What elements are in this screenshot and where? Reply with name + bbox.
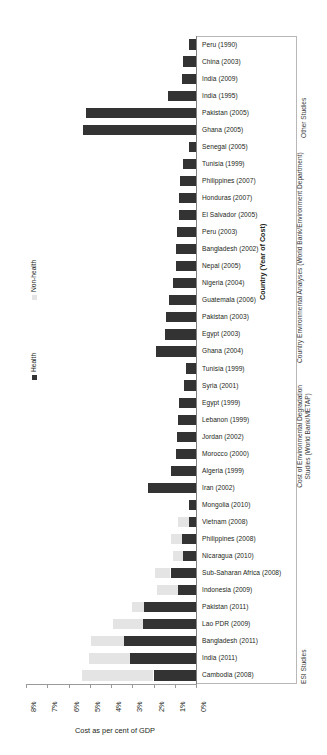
bar-row-label: Honduras (2007) xyxy=(202,194,252,202)
bar-row: Nicaragua (2010) xyxy=(26,551,297,561)
bar-segment-health xyxy=(156,346,196,356)
bar-row-label: Peru (1990) xyxy=(202,41,237,49)
bar-segment-health xyxy=(184,380,196,390)
bar-row: Peru (2003) xyxy=(26,227,297,237)
bar-segment-health xyxy=(178,585,196,595)
bar-segment-health xyxy=(189,39,196,49)
bar-segment-health xyxy=(154,670,197,680)
bar-row: Bangladesh (2011) xyxy=(26,636,297,646)
bar-row: Egypt (1999) xyxy=(26,398,297,408)
bar-row: Mongolia (2010) xyxy=(26,500,297,510)
bar-segment-non-health xyxy=(173,551,184,561)
bar-row-label: Syria (2001) xyxy=(202,382,239,390)
bar-row: Cambodia (2008) xyxy=(26,670,297,680)
bar-row-label: Pakistan (2003) xyxy=(202,313,249,321)
bar-row: Syria (2001) xyxy=(26,380,297,390)
bar-segment-non-health xyxy=(91,636,124,646)
bar-segment-health xyxy=(144,602,196,612)
bar-row-label: Egypt (1999) xyxy=(202,399,240,407)
x-tick-label: 6% xyxy=(72,701,81,712)
bar-segment-non-health xyxy=(113,619,143,629)
bar-rows-container: Peru (1990)China (2003)India (2009)India… xyxy=(26,36,297,684)
x-tick-label: 2% xyxy=(157,701,166,712)
bar-row: Iran (2002) xyxy=(26,483,297,493)
bar-segment-health xyxy=(176,244,196,254)
bar-segment-health xyxy=(148,483,196,493)
x-tick xyxy=(154,684,155,688)
bar-row-label: Mongolia (2010) xyxy=(202,501,250,509)
bar-row: Peru (1990) xyxy=(26,39,297,49)
bar-segment-health xyxy=(171,568,197,578)
bar-segment-health xyxy=(166,312,196,322)
bar-row-label: Morocco (2000) xyxy=(202,450,249,458)
bar-row: Nigeria (2004) xyxy=(26,278,297,288)
bar-segment-non-health xyxy=(171,534,183,544)
bar-row: Bangladesh (2002) xyxy=(26,244,297,254)
bar-segment-health xyxy=(179,210,196,220)
bar-row-label: Nigeria (2004) xyxy=(202,279,244,287)
x-tick xyxy=(175,684,176,688)
bar-row-label: Egypt (2003) xyxy=(202,330,240,338)
bar-segment-health xyxy=(86,108,197,118)
bar-row: Algeria (1999) xyxy=(26,466,297,476)
bar-segment-non-health xyxy=(132,602,144,612)
bar-row: India (2009) xyxy=(26,74,297,84)
bar-row: Tunisia (1999) xyxy=(26,159,297,169)
x-tick-label: 3% xyxy=(135,701,144,712)
bar-row-label: Peru (2003) xyxy=(202,228,237,236)
bar-row-label: China (2003) xyxy=(202,58,241,66)
bar-row-label: Nicaragua (2010) xyxy=(202,552,254,560)
x-tick-label: 4% xyxy=(114,701,123,712)
bar-row-label: Ghana (2004) xyxy=(202,347,243,355)
bar-row: Jordan (2002) xyxy=(26,432,297,442)
plot-area: Peru (1990)China (2003)India (2009)India… xyxy=(26,36,297,684)
bar-row-label: Tunisia (1999) xyxy=(202,365,245,373)
legend-item-health: Health xyxy=(30,353,37,380)
bar-segment-health xyxy=(173,278,196,288)
bar-row: China (2003) xyxy=(26,56,297,66)
bar-row: Pakistan (2003) xyxy=(26,312,297,322)
bar-segment-non-health xyxy=(82,670,153,680)
bar-segment-health xyxy=(177,227,196,237)
bar-row-label: Pakistan (2011) xyxy=(202,603,248,611)
bar-segment-health xyxy=(177,432,196,442)
bar-row: Pakistan (2011) xyxy=(26,602,297,612)
bar-row: Philippines (2007) xyxy=(26,176,297,186)
bar-row: Lebanon (1999) xyxy=(26,415,297,425)
bar-row-label: Vietnam (2008) xyxy=(202,518,248,526)
bar-row-label: Lao PDR (2009) xyxy=(202,620,250,628)
bar-row: Egypt (2003) xyxy=(26,329,297,339)
bar-row: Nepal (2005) xyxy=(26,261,297,271)
bar-segment-health xyxy=(182,534,196,544)
bar-row-label: India (1995) xyxy=(202,92,238,100)
bar-row-label: El Salvador (2005) xyxy=(202,211,258,219)
bar-row: Ghana (2005) xyxy=(26,125,297,135)
bar-segment-non-health xyxy=(89,653,130,663)
bar-row: Vietnam (2008) xyxy=(26,517,297,527)
bar-row: Lao PDR (2009) xyxy=(26,619,297,629)
x-tick-label: 5% xyxy=(93,701,102,712)
bar-row-label: India (2009) xyxy=(202,75,238,83)
bar-segment-health xyxy=(179,398,196,408)
bar-segment-health xyxy=(83,125,196,135)
bar-row-label: Guatemala (2006) xyxy=(202,296,256,304)
bar-row: Pakistan (2005) xyxy=(26,108,297,118)
bar-row: Guatemala (2006) xyxy=(26,295,297,305)
x-tick xyxy=(26,684,27,688)
group-annotation-label: ESI Studies xyxy=(300,650,308,684)
bar-row-label: Lebanon (1999) xyxy=(202,416,249,424)
bar-segment-health xyxy=(171,466,197,476)
bar-segment-health xyxy=(186,363,196,373)
bar-row: Honduras (2007) xyxy=(26,193,297,203)
x-tick-label: 1% xyxy=(178,701,187,712)
bar-segment-health xyxy=(168,91,196,101)
bar-row-label: Philippines (2008) xyxy=(202,535,256,543)
x-tick xyxy=(196,684,197,688)
bar-segment-health xyxy=(165,329,196,339)
bar-row-label: Cambodia (2008) xyxy=(202,671,254,679)
bar-segment-non-health xyxy=(178,517,189,527)
bar-segment-health xyxy=(143,619,196,629)
bar-segment-health xyxy=(189,517,196,527)
bar-segment-health xyxy=(183,551,196,561)
x-tick xyxy=(47,684,48,688)
